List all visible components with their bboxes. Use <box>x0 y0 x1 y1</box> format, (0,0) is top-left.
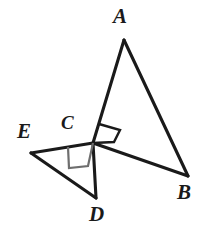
triangle-abc <box>93 40 188 176</box>
geometry-figure: A B C D E <box>0 0 204 235</box>
vertex-label-a: A <box>113 6 127 27</box>
vertex-label-d: D <box>89 204 104 225</box>
triangle-ecd <box>31 143 96 198</box>
vertex-label-b: B <box>177 182 191 203</box>
segment-cd <box>93 143 96 198</box>
segment-ed <box>31 153 96 198</box>
segment-ec <box>31 143 93 153</box>
vertex-label-c: C <box>61 113 74 132</box>
vertex-label-e: E <box>17 121 31 142</box>
geometry-canvas <box>0 0 204 235</box>
